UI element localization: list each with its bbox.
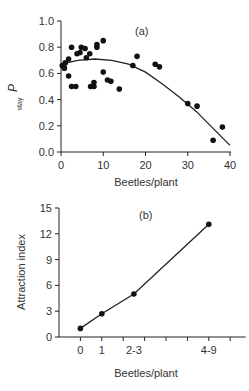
panel-a-xlabel: Beetles/plant — [114, 176, 178, 188]
data-point — [131, 291, 137, 297]
x-tick-label: 2-3 — [126, 344, 142, 356]
data-point — [185, 101, 191, 107]
y-tick-label: 0.4 — [39, 94, 54, 106]
x-tick-label: 4-9 — [201, 344, 217, 356]
y-tick-label: 9 — [46, 254, 52, 266]
data-point — [66, 73, 72, 79]
panel-a-label: (a) — [135, 25, 148, 37]
y-tick-label: 0.8 — [39, 41, 54, 53]
data-point — [210, 137, 216, 143]
x-tick-label: 10 — [97, 159, 109, 171]
panel-a-axes: 0.00.20.40.60.81.0010203040 — [39, 15, 236, 171]
panel-b-ylabel: Attraction index — [15, 234, 27, 310]
panel-b-line: 03691215012-34-9 (b) Beetles/plant Attra… — [15, 202, 249, 379]
svg-text:P: P — [6, 84, 20, 92]
y-tick-label: 0.2 — [39, 120, 54, 132]
data-point — [220, 124, 226, 130]
panel-a-data-points — [59, 38, 225, 143]
y-tick-label: 12 — [40, 228, 52, 240]
y-tick-label: 1.0 — [39, 15, 54, 27]
figure: 0.00.20.40.60.81.0010203040 (a) Beetles/… — [0, 0, 249, 391]
panel-b-xlabel: Beetles/plant — [114, 367, 178, 379]
x-tick-label: 0 — [58, 159, 64, 171]
data-point — [73, 84, 79, 90]
panel-a-ylabel: P stay — [6, 84, 24, 110]
panel-b-axes: 03691215012-34-9 — [40, 202, 249, 356]
svg-text:stay: stay — [16, 97, 24, 110]
panel-a-fit-curve — [61, 59, 230, 145]
data-point — [100, 69, 106, 75]
data-point — [117, 86, 123, 92]
data-point — [130, 63, 136, 69]
data-point — [94, 42, 100, 48]
data-point — [100, 38, 106, 44]
data-point — [66, 56, 72, 62]
x-tick-label: 20 — [139, 159, 151, 171]
x-tick-label: 30 — [182, 159, 194, 171]
panel-b-series — [78, 222, 212, 332]
x-tick-label: 0 — [77, 344, 83, 356]
fit-curve — [61, 59, 230, 145]
data-point — [82, 46, 88, 52]
y-tick-label: 6 — [46, 279, 52, 291]
panel-a-scatter: 0.00.20.40.60.81.0010203040 (a) Beetles/… — [6, 15, 236, 188]
x-tick-label: 40 — [224, 159, 236, 171]
data-point — [78, 326, 84, 332]
data-point — [99, 311, 105, 317]
y-tick-label: 0.0 — [39, 146, 54, 158]
y-tick-label: 0.6 — [39, 67, 54, 79]
panel-b-label: (b) — [139, 209, 152, 221]
data-point — [91, 84, 97, 90]
y-tick-label: 15 — [40, 202, 52, 214]
data-point — [62, 65, 68, 71]
x-tick-label: 1 — [99, 344, 105, 356]
data-point — [206, 222, 212, 228]
data-point — [157, 64, 163, 70]
data-point — [108, 78, 114, 84]
y-tick-label: 3 — [46, 305, 52, 317]
data-point — [77, 50, 83, 56]
data-point — [194, 103, 200, 109]
data-point — [69, 44, 75, 50]
data-point — [134, 54, 140, 60]
y-tick-label: 0 — [46, 331, 52, 343]
data-point — [87, 51, 93, 57]
